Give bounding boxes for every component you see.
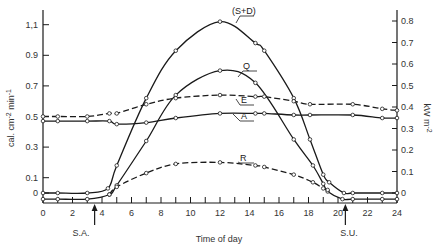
series-label-sd: (S+D) <box>232 6 256 16</box>
y-right-tick-label: 0.4 <box>401 102 414 112</box>
y-left-tick-label: 0.3 <box>25 142 38 152</box>
data-point-marker <box>85 191 89 195</box>
y-right-tick-label: 0 <box>401 188 406 198</box>
sunrise-label: S.A. <box>72 228 89 238</box>
data-point-marker <box>218 112 222 116</box>
series-line <box>43 70 397 200</box>
x-tick-label: 24 <box>392 208 402 218</box>
data-point-marker <box>351 197 355 201</box>
data-point-marker <box>292 173 296 177</box>
y-left-tick-label: 0 <box>33 188 38 198</box>
data-point-marker <box>380 191 384 195</box>
data-point-marker <box>311 164 315 168</box>
data-point-marker <box>56 197 60 201</box>
y-right-tick-label: 0.8 <box>401 16 414 26</box>
series-q <box>41 69 399 201</box>
data-point-marker <box>262 112 266 116</box>
data-point-marker <box>85 197 89 201</box>
series-line <box>43 22 397 194</box>
x-tick-label: 0 <box>40 208 45 218</box>
sunset-arrow-icon <box>342 204 348 211</box>
data-point-marker <box>115 122 119 126</box>
data-point-marker <box>254 81 258 85</box>
data-point-marker <box>41 119 45 123</box>
y-right-tick-label: 0.1 <box>401 167 414 177</box>
data-point-marker <box>174 96 178 100</box>
y-axis-right-title: kW m-2 <box>422 103 433 132</box>
data-point-marker <box>321 182 325 186</box>
x-tick-label: 10 <box>185 208 195 218</box>
x-tick-label: 16 <box>274 208 284 218</box>
x-tick-label: 18 <box>303 208 313 218</box>
y-left-tick-label: 0.7 <box>25 81 38 91</box>
data-point-marker <box>351 113 355 117</box>
data-point-marker <box>56 119 60 123</box>
x-tick-label: 8 <box>158 208 163 218</box>
data-point-marker <box>144 102 148 106</box>
data-point-marker <box>292 113 296 117</box>
data-point-marker <box>254 41 258 45</box>
x-tick-label: 4 <box>99 208 104 218</box>
data-point-marker <box>380 107 384 111</box>
data-point-marker <box>144 139 148 143</box>
y-right-tick-label: 0.5 <box>401 81 414 91</box>
data-point-marker <box>380 197 384 201</box>
data-point-marker <box>85 119 89 123</box>
data-point-marker <box>395 191 399 195</box>
data-point-marker <box>218 20 222 24</box>
data-point-marker <box>108 112 112 116</box>
data-point-marker <box>395 109 399 113</box>
data-point-marker <box>174 116 178 120</box>
series-label-a: A <box>241 111 247 121</box>
data-point-marker <box>341 197 345 201</box>
data-point-marker <box>41 191 45 195</box>
data-point-marker <box>218 93 222 97</box>
data-point-marker <box>308 113 312 117</box>
series-label-r: R <box>240 153 247 163</box>
sunrise-arrow-icon <box>92 204 98 211</box>
series-sd <box>41 20 399 195</box>
data-point-marker <box>321 187 325 191</box>
data-point-marker <box>254 112 258 116</box>
y-left-tick-label: 0.1 <box>25 173 38 183</box>
data-point-marker <box>254 164 258 168</box>
data-point-marker <box>144 96 148 100</box>
data-point-marker <box>262 165 266 169</box>
y-right-tick-label: 0.6 <box>401 59 414 69</box>
series-label-q: Q <box>243 61 250 71</box>
y-left-tick-label: 0.9 <box>25 50 38 60</box>
data-point-marker <box>321 173 325 177</box>
data-point-marker <box>351 102 355 106</box>
data-point-marker <box>262 95 266 99</box>
series-label-e: E <box>241 95 247 105</box>
x-tick-label: 22 <box>362 208 372 218</box>
data-point-marker <box>254 95 258 99</box>
y-left-tick-label: 1,1 <box>25 20 38 30</box>
data-point-marker <box>144 171 148 175</box>
data-point-marker <box>144 121 148 125</box>
y-right-tick-label: 0.7 <box>401 38 414 48</box>
data-point-marker <box>380 116 384 120</box>
data-point-marker <box>308 138 312 142</box>
data-point-marker <box>218 69 222 73</box>
data-point-marker <box>41 115 45 119</box>
data-point-marker <box>115 164 119 168</box>
series-line <box>109 162 327 194</box>
data-point-marker <box>395 197 399 201</box>
y-axis-left-title: cal. cm-2 min-1 <box>5 89 16 147</box>
data-point-marker <box>342 191 346 195</box>
data-point-marker <box>292 99 296 103</box>
x-tick-label: 6 <box>129 208 134 218</box>
data-point-marker <box>326 188 330 192</box>
data-point-marker <box>311 180 315 184</box>
data-point-marker <box>308 102 312 106</box>
y-left-tick-label: 0.5 <box>25 112 38 122</box>
data-point-marker <box>262 49 266 53</box>
data-point-marker <box>174 162 178 166</box>
x-tick-label: 14 <box>244 208 254 218</box>
x-axis-title: Time of day <box>196 234 243 244</box>
data-point-marker <box>85 115 89 119</box>
data-point-marker <box>108 193 112 197</box>
data-point-marker <box>115 112 119 116</box>
data-point-marker <box>292 138 296 142</box>
